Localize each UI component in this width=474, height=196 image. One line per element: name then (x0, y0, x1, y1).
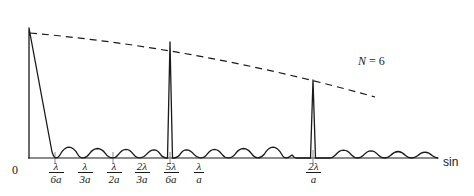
fraction-denominator: 3a (78, 172, 93, 186)
annotation-symbol: N (358, 54, 366, 68)
fraction-numerator: λ (49, 160, 64, 172)
fraction: 2λ a (306, 160, 320, 186)
x-tick-label-2lambda-over-a: 2λ a (301, 160, 326, 186)
fraction: 2λ 3a (135, 160, 150, 186)
annotation-number-of-slits: N = 6 (358, 54, 385, 69)
fraction: λ 2a (107, 160, 122, 186)
fraction-numerator: λ (107, 160, 122, 172)
intensity-plot (0, 0, 474, 196)
fraction: λ 3a (78, 160, 93, 186)
x-tick-label-lambda-over-6a: λ 6a (45, 160, 67, 186)
fraction-denominator: 6a (49, 172, 64, 186)
fraction-numerator: 5λ (164, 160, 179, 172)
x-tick-label-lambda-over-3a: λ 3a (74, 160, 96, 186)
fraction-numerator: 2λ (306, 160, 320, 172)
diffraction-pattern-figure: 0 λ 6a λ 3a λ 2a 2λ 3a 5λ 6a λ (0, 0, 474, 196)
fraction-denominator: a (194, 172, 204, 186)
diffraction-envelope-dashed (30, 33, 375, 97)
fraction-denominator: 2a (107, 172, 122, 186)
x-tick-label-5lambda-over-6a: 5λ 6a (158, 160, 184, 186)
fraction-numerator: 2λ (135, 160, 150, 172)
fraction: λ a (194, 160, 204, 186)
fraction: 5λ 6a (164, 160, 179, 186)
x-tick-label-lambda-over-a: λ a (189, 160, 209, 186)
fraction-numerator: λ (78, 160, 93, 172)
x-axis-label: sin (443, 155, 458, 169)
fraction: λ 6a (49, 160, 64, 186)
fraction-denominator: 6a (164, 172, 179, 186)
fraction-numerator: λ (194, 160, 204, 172)
annotation-equals: = (366, 54, 379, 68)
x-axis-zero-label: 0 (12, 163, 18, 178)
x-tick-label-2lambda-over-3a: 2λ 3a (129, 160, 155, 186)
intensity-curve (29, 28, 438, 158)
fraction-denominator: a (306, 172, 320, 186)
annotation-value: 6 (379, 54, 385, 68)
x-tick-label-lambda-over-2a: λ 2a (103, 160, 125, 186)
fraction-denominator: 3a (135, 172, 150, 186)
